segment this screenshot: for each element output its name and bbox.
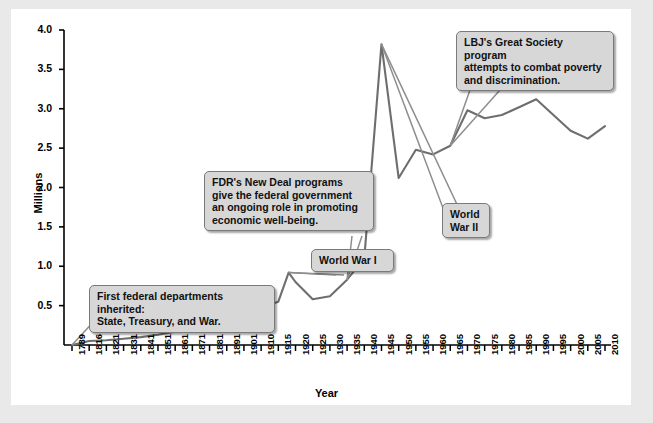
x-tick-label: 1871 — [196, 334, 207, 355]
y-tick-label: 0.5 — [22, 299, 52, 311]
x-tick-label: 1925 — [317, 334, 328, 355]
x-tick-label: 1940 — [368, 334, 379, 355]
annotation-world-war-1: World War I — [311, 249, 394, 272]
annotation-world-war-2: World War II — [442, 203, 490, 238]
x-tick-label: 1789 — [76, 334, 87, 355]
x-tick-label: 1960 — [437, 334, 448, 355]
y-tick-label: 4.0 — [22, 23, 52, 35]
x-tick-label: 1950 — [403, 334, 414, 355]
x-tick-label: 1910 — [265, 334, 276, 355]
x-tick-label: 1970 — [471, 334, 482, 355]
x-tick-label: 1975 — [489, 334, 500, 355]
y-tick-label: 3.5 — [22, 62, 52, 74]
x-tick-label: 1821 — [110, 334, 121, 355]
annotation-first-departments: First federal departments inherited: Sta… — [89, 285, 275, 333]
x-tick-label: 1980 — [506, 334, 517, 355]
x-tick-label: 2005 — [592, 334, 603, 355]
y-tick-label: 3.0 — [22, 102, 52, 114]
x-tick-label: 1901 — [248, 334, 259, 355]
annotation-fdr-new-deal: FDR's New Deal programs give the federal… — [204, 171, 374, 231]
annotation-leader-world-war-2 — [381, 44, 452, 232]
x-tick-label: 1920 — [300, 334, 311, 355]
chart-figure: 0.51.01.52.02.53.03.54.0 178918161821183… — [0, 0, 653, 423]
x-tick-label: 1881 — [214, 334, 225, 355]
x-tick-label: 1995 — [557, 334, 568, 355]
y-tick-label: 2.5 — [22, 141, 52, 153]
x-tick-label: 1915 — [282, 334, 293, 355]
x-tick-label: 1935 — [351, 334, 362, 355]
x-tick-label: 1990 — [540, 334, 551, 355]
annotation-leader-lbj-great-society — [450, 90, 500, 146]
x-axis-title: Year — [0, 387, 653, 399]
y-tick-label: 1.0 — [22, 259, 52, 271]
x-tick-label: 2000 — [575, 334, 586, 355]
y-axis-title: Millions — [32, 158, 44, 228]
x-tick-label: 1891 — [231, 334, 242, 355]
x-tick-label: 1831 — [128, 334, 139, 355]
annotation-lbj-great-society: LBJ's Great Society program attempts to … — [456, 31, 614, 91]
x-tick-label: 1945 — [385, 334, 396, 355]
x-tick-label: 1861 — [179, 334, 190, 355]
x-tick-label: 1841 — [145, 334, 156, 355]
x-tick-label: 1965 — [454, 334, 465, 355]
x-tick-label: 1955 — [420, 334, 431, 355]
x-tick-label: 2010 — [609, 334, 620, 355]
x-tick-label: 1985 — [523, 334, 534, 355]
x-tick-label: 1851 — [162, 334, 173, 355]
x-tick-label: 1816 — [93, 334, 104, 355]
x-tick-label: 1930 — [334, 334, 345, 355]
annotation-leader-lbj-great-society — [450, 90, 470, 146]
